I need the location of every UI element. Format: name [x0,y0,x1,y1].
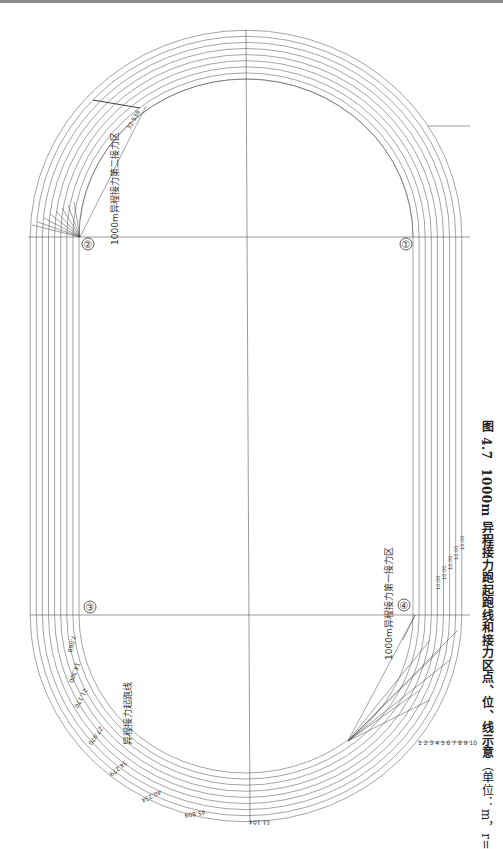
svg-text:45.809: 45.809 [184,809,206,820]
marker-3: ③ [86,602,95,613]
lane-line [42,42,449,809]
first-zone-fan [348,615,470,742]
svg-text:14.300: 14.300 [68,662,82,684]
lane-line [73,73,419,779]
first-zone-straight-values: 10.00 10.00 10.00 10.00 10.00 [435,536,465,590]
lane-line [36,36,455,815]
start-line-label: 异程接力起跑线 [122,682,133,745]
svg-text:40.234: 40.234 [140,789,162,804]
lane-line [30,30,462,821]
svg-text:51.104: 51.104 [249,819,270,826]
lane-number-key: 1 2 3 4 5 6 7 8 9 10 [418,739,477,746]
marker-2: ② [84,239,93,250]
marker-4: ④ [400,600,409,611]
axis-lines [28,30,470,821]
svg-text:10.00: 10.00 [459,536,465,550]
lane-line [79,79,413,773]
first-relay-zone-label: 1000m异程接力第一接力区 [383,547,394,660]
lane-line [67,67,425,785]
track-diagram: ② ① ③ ④ 1000m异程接力第二接力区 1000m异程接力第一接力区 异程… [0,0,503,849]
lane-line [49,48,444,803]
marker-1: ① [402,239,411,250]
vertical-axis [246,30,250,821]
markers: ② ① ③ ④ [82,238,412,613]
second-relay-zone-label: 1000m异程接力第二接力区 [109,132,120,245]
figure-caption: 图 4.7 1000m 异程接力跑起跑线和接力区点、位、线示意（单位：m，r=3… [475,420,495,840]
track-lanes [0,0,413,237]
